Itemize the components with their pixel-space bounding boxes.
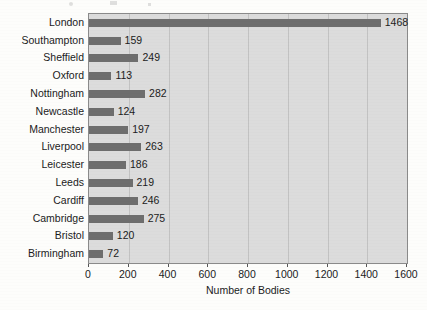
x-axis-tick: [406, 264, 407, 267]
bar-value-label: 249: [142, 52, 160, 62]
x-axis-tick: [88, 264, 89, 267]
y-axis-label: Cambridge: [0, 213, 84, 223]
x-axis-tick-label: 400: [159, 268, 177, 280]
bar-value-label: 219: [137, 177, 155, 187]
bar-chart-figure: LondonSouthamptonSheffieldOxfordNottingh…: [0, 0, 427, 310]
y-axis-label: Cardiff: [0, 195, 84, 205]
y-axis-label: Sheffield: [0, 52, 84, 62]
y-axis-label: Bristol: [0, 230, 84, 240]
x-axis-title: Number of Bodies: [88, 284, 408, 296]
x-axis: 02004006008001000120014001600: [88, 264, 408, 284]
x-axis-tick-label: 1400: [355, 268, 378, 280]
scan-artifacts: [0, 0, 427, 12]
x-axis-tick: [327, 264, 328, 267]
scan-speck: [69, 2, 73, 6]
bar-value-label: 246: [142, 195, 160, 205]
x-axis-tick-label: 600: [198, 268, 216, 280]
y-axis-label: Newcastle: [0, 106, 84, 116]
x-axis-tick-label: 200: [119, 268, 137, 280]
x-axis-tick-label: 1600: [394, 268, 417, 280]
x-axis-tick-label: 1200: [315, 268, 338, 280]
y-axis-label: Birmingham: [0, 248, 84, 258]
x-axis-tick: [247, 264, 248, 267]
bar-value-label: 113: [115, 70, 132, 80]
bar-value-label: 124: [118, 106, 136, 116]
x-axis-tick: [366, 264, 367, 267]
x-axis-tick: [207, 264, 208, 267]
y-axis-label: Leeds: [0, 177, 84, 187]
bar-value-labels: 1468159249113282124197263186219246275120…: [88, 13, 427, 264]
x-axis-tick-label: 0: [85, 268, 91, 280]
bar-value-label: 186: [130, 159, 148, 169]
y-axis-category-labels: LondonSouthamptonSheffieldOxfordNottingh…: [0, 13, 84, 264]
bar-value-label: 197: [132, 124, 150, 134]
y-axis-label: Leicester: [0, 159, 84, 169]
bar-value-label: 72: [107, 248, 119, 258]
bar-value-label: 263: [145, 141, 163, 151]
y-axis-label: Manchester: [0, 124, 84, 134]
x-axis-tick: [168, 264, 169, 267]
scan-speck: [148, 3, 151, 6]
bar-value-label: 282: [149, 88, 167, 98]
y-axis-label: Nottingham: [0, 88, 84, 98]
x-axis-tick: [128, 264, 129, 267]
y-axis-label: Southampton: [0, 35, 84, 45]
bar-value-label: 275: [148, 213, 166, 223]
bar-value-label: 159: [125, 35, 143, 45]
scan-speck: [110, 1, 117, 5]
x-axis-tick-label: 1000: [275, 268, 298, 280]
bar-value-label: 1468: [385, 17, 408, 27]
x-axis-tick: [287, 264, 288, 267]
y-axis-label: London: [0, 17, 84, 27]
y-axis-label: Liverpool: [0, 141, 84, 151]
bar-value-label: 120: [117, 230, 135, 240]
y-axis-label: Oxford: [0, 70, 84, 80]
x-axis-tick-label: 800: [238, 268, 256, 280]
